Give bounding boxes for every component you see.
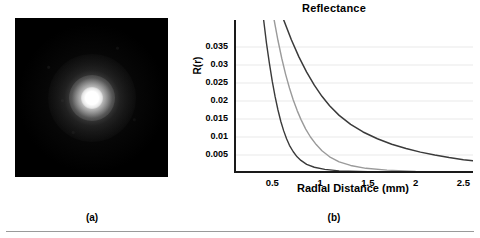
caption-panel-b: (b)	[304, 212, 364, 223]
y-tick-label: 0.005	[186, 150, 228, 159]
x-tick-label: 2	[401, 178, 431, 188]
speckle-beam-image	[15, 18, 168, 177]
x-tick-label: 1	[305, 178, 335, 188]
y-tick-label: 0.02	[186, 96, 228, 105]
plot-frame	[234, 20, 473, 173]
x-tick-label: 2.5	[448, 178, 478, 188]
gridlines	[235, 47, 473, 155]
reflectance-chart: Reflectance R(r) Radial Distance (mm) 0.…	[188, 0, 480, 200]
plot-canvas	[234, 20, 473, 173]
y-tick-label: 0.035	[186, 42, 228, 51]
y-tick-label: 0.025	[186, 78, 228, 87]
chart-title: Reflectance	[188, 2, 480, 14]
x-tick-label: 1.5	[353, 178, 383, 188]
y-tick-label: 0.03	[186, 60, 228, 69]
curve-curve-1	[264, 20, 473, 173]
curve-curve-2	[274, 20, 473, 173]
bottom-divider	[6, 231, 474, 232]
caption-panel-a: (a)	[62, 212, 122, 223]
y-tick-label: 0.015	[186, 114, 228, 123]
y-tick-label: 0.01	[186, 132, 228, 141]
data-curves	[264, 20, 473, 173]
beam-core-spot	[81, 87, 103, 109]
axis-lines	[234, 20, 473, 173]
x-tick-label: 0.5	[257, 178, 287, 188]
